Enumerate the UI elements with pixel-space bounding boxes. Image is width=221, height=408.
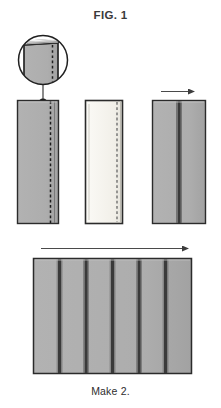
seam-line	[164, 259, 167, 373]
diagram-canvas	[0, 0, 221, 408]
figure-1-diagram: FIG. 1	[0, 0, 221, 408]
folded-strip-gray	[18, 101, 59, 224]
strip-body	[18, 101, 59, 224]
seam-line	[178, 101, 181, 223]
joined-strip-pair	[153, 92, 206, 224]
magnified-fold-detail	[18, 35, 68, 108]
seam-line	[58, 259, 61, 373]
figure-caption: Make 2.	[0, 385, 221, 397]
seam-line	[85, 259, 88, 373]
assembled-strip-panel	[34, 249, 192, 374]
seam-line	[111, 259, 114, 373]
seam-line	[138, 259, 141, 373]
folded-strip-light	[86, 101, 123, 224]
